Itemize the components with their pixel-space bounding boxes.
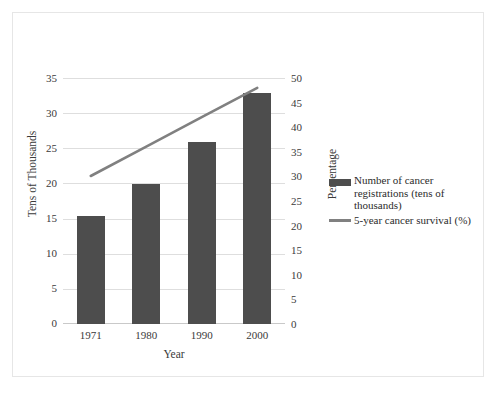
y-right-tick: 10 bbox=[291, 270, 302, 281]
y-right-tick: 25 bbox=[291, 196, 302, 207]
legend-label-line: 5-year cancer survival (%) bbox=[354, 214, 471, 227]
y-left-tick: 5 bbox=[52, 283, 58, 294]
x-tick-2000: 2000 bbox=[232, 329, 282, 342]
x-tick-1990: 1990 bbox=[177, 329, 227, 342]
y-axis-left-title: Tens of Thousands bbox=[26, 109, 38, 239]
x-tick-1980: 1980 bbox=[121, 329, 171, 342]
y-right-tick: 30 bbox=[291, 171, 302, 182]
y-right-tick: 15 bbox=[291, 245, 302, 256]
y-left-tick: 20 bbox=[46, 178, 57, 189]
y-left-tick: 25 bbox=[46, 143, 57, 154]
survival-line-series bbox=[63, 78, 285, 324]
chart-figure: 35 30 25 20 15 10 5 0 50 45 40 35 30 25 … bbox=[0, 0, 497, 393]
bar-swatch-icon bbox=[329, 179, 351, 186]
x-tick-1971: 1971 bbox=[66, 329, 116, 342]
legend-label-bars: Number of cancer registrations (tens of … bbox=[354, 174, 484, 212]
y-left-tick: 15 bbox=[46, 213, 57, 224]
y-left-tick: 10 bbox=[46, 248, 57, 259]
legend-entry-bars: Number of cancer registrations (tens of … bbox=[329, 174, 484, 212]
y-axis-right-ticks: 50 45 40 35 30 25 20 15 10 5 0 bbox=[291, 78, 313, 324]
y-right-tick: 5 bbox=[291, 294, 297, 305]
line-swatch-icon bbox=[329, 219, 351, 222]
y-right-tick: 0 bbox=[291, 319, 297, 330]
y-right-tick: 20 bbox=[291, 221, 302, 232]
y-right-tick: 50 bbox=[291, 73, 302, 84]
y-left-tick: 0 bbox=[52, 318, 58, 329]
x-axis-tick-labels: 1971 1980 1990 2000 bbox=[63, 329, 285, 345]
y-left-tick: 30 bbox=[46, 108, 57, 119]
y-right-tick: 45 bbox=[291, 98, 302, 109]
y-right-tick: 35 bbox=[291, 147, 302, 158]
y-right-tick: 40 bbox=[291, 122, 302, 133]
x-axis-title: Year bbox=[63, 348, 285, 360]
y-left-tick: 35 bbox=[46, 73, 57, 84]
plot-area bbox=[63, 78, 285, 324]
legend-entry-line: 5-year cancer survival (%) bbox=[329, 214, 484, 227]
chart-legend: Number of cancer registrations (tens of … bbox=[329, 174, 484, 228]
